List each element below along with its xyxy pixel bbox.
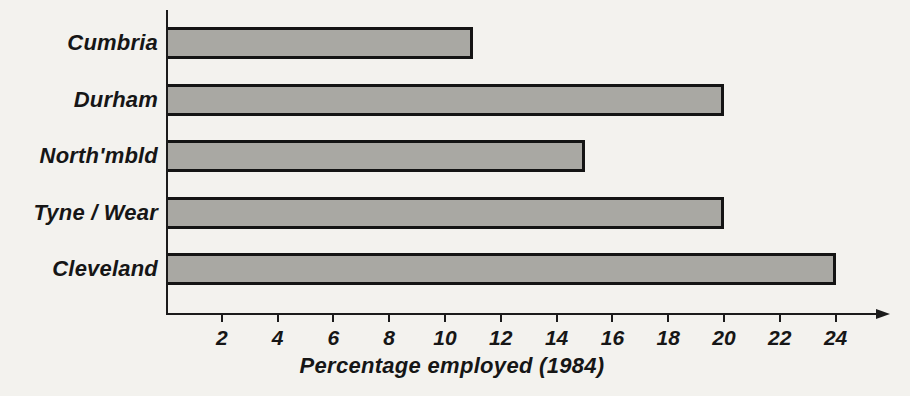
bar — [168, 27, 473, 59]
category-label: Cumbria — [0, 27, 158, 59]
x-axis-tick-label: 16 — [590, 326, 634, 350]
x-axis-tick-label: 18 — [646, 326, 690, 350]
x-axis-line — [166, 313, 877, 315]
x-axis-tick — [723, 313, 725, 322]
x-axis-title: Percentage employed (1984) — [166, 353, 738, 379]
x-axis-tick — [277, 313, 279, 322]
x-axis-tick — [332, 313, 334, 322]
category-label: Durham — [0, 84, 158, 116]
bar — [168, 140, 585, 172]
bar — [168, 197, 724, 229]
bar-chart-figure: CumbriaDurhamNorth'mbldTyne / WearClevel… — [0, 0, 910, 396]
x-axis-tick-label: 6 — [311, 326, 355, 350]
category-label: North'mbld — [0, 140, 158, 172]
bar — [168, 84, 724, 116]
x-axis-tick — [667, 313, 669, 322]
x-axis-tick — [444, 313, 446, 322]
x-axis-tick-label: 8 — [367, 326, 411, 350]
plot-area: CumbriaDurhamNorth'mbldTyne / WearClevel… — [0, 0, 910, 396]
x-axis-tick-label: 24 — [814, 326, 858, 350]
x-axis-tick-label: 12 — [479, 326, 523, 350]
axis-arrow-icon — [876, 309, 890, 319]
x-axis-tick-label: 4 — [256, 326, 300, 350]
x-axis-tick-label: 20 — [702, 326, 746, 350]
x-axis-tick — [835, 313, 837, 322]
x-axis-tick — [388, 313, 390, 322]
x-axis-tick-label: 10 — [423, 326, 467, 350]
x-axis-tick-label: 22 — [758, 326, 802, 350]
category-label: Tyne / Wear — [0, 197, 158, 229]
x-axis-tick — [779, 313, 781, 322]
x-axis-tick — [556, 313, 558, 322]
bar — [168, 253, 836, 285]
x-axis-tick — [221, 313, 223, 322]
x-axis-tick-label: 14 — [535, 326, 579, 350]
category-label: Cleveland — [0, 253, 158, 285]
x-axis-tick — [611, 313, 613, 322]
x-axis-tick — [500, 313, 502, 322]
x-axis-tick-label: 2 — [200, 326, 244, 350]
